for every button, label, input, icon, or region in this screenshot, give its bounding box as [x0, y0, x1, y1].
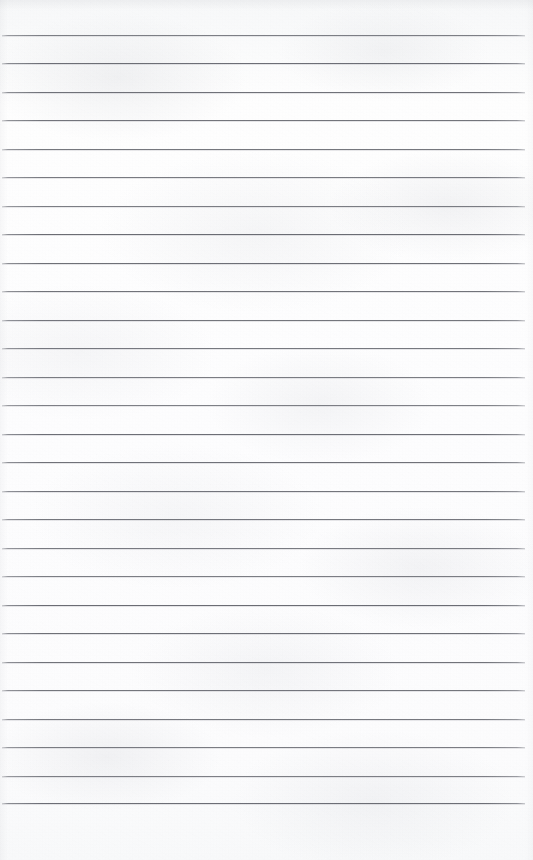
- scanned-notebook-page: [0, 0, 533, 860]
- writing-area: [2, 35, 525, 804]
- bottom-margin-area: [0, 804, 533, 860]
